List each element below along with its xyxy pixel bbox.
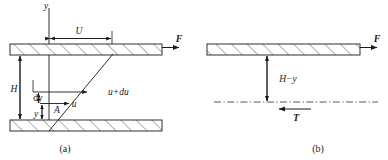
label-F-a: F <box>175 33 183 44</box>
label-A: A <box>53 105 60 115</box>
caption-panel-a: (a) <box>59 143 70 155</box>
figure-root: y U F H dy y A u u+du (a) <box>0 0 388 160</box>
label-H: H <box>10 84 19 94</box>
caption-panel-b: (b) <box>312 143 324 155</box>
label-T: T <box>293 112 300 123</box>
plate-b <box>207 44 360 55</box>
label-y-coordinate: y <box>33 109 39 119</box>
couette-flow-diagram: y U F H dy y A u u+du (a) <box>0 0 388 160</box>
label-u: u <box>72 99 77 109</box>
label-dy: dy <box>33 93 43 103</box>
panel-b: F H−y T (b) <box>207 33 381 155</box>
label-y-axis: y <box>43 1 49 11</box>
bottom-plate <box>10 120 162 131</box>
velocity-profile-line <box>49 54 113 131</box>
label-u-plus-du: u+du <box>108 87 129 97</box>
label-U: U <box>76 26 84 36</box>
panel-a: y U F H dy y A u u+du (a) <box>10 1 183 155</box>
velocity-arrow-upper <box>33 80 87 92</box>
label-F-b: F <box>373 33 381 44</box>
label-H-minus-y: H−y <box>278 74 297 84</box>
top-plate <box>10 44 162 55</box>
